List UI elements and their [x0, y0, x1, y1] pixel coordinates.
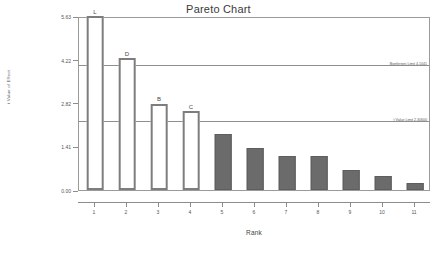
- bar-label-2: D: [125, 51, 129, 57]
- x-tick-label: 8: [317, 209, 320, 215]
- bar-rank-10[interactable]: [375, 176, 392, 190]
- bar-slot: [399, 18, 431, 190]
- bar-rank-9[interactable]: [343, 170, 360, 190]
- x-tick: [190, 203, 191, 207]
- x-tick-label: 7: [285, 209, 288, 215]
- x-tick: [254, 203, 255, 207]
- x-axis: 1234567891011: [78, 202, 430, 203]
- y-tick-label: 2.82: [61, 101, 71, 107]
- x-tick: [350, 203, 351, 207]
- bar-slot: D: [111, 18, 143, 190]
- x-tick: [382, 203, 383, 207]
- bar-rank-6[interactable]: [247, 148, 264, 190]
- bar-slot: [367, 18, 399, 190]
- bar-rank-1[interactable]: [87, 16, 104, 190]
- y-tick-label: 1.41: [61, 144, 71, 150]
- bars-layer: LDBC: [79, 18, 429, 190]
- bar-rank-4[interactable]: [183, 111, 200, 190]
- pareto-chart: Pareto Chart 0.001.412.824.225.63 t Valu…: [0, 0, 437, 254]
- y-tick-label: 4.22: [61, 58, 71, 64]
- bar-slot: B: [143, 18, 175, 190]
- x-tick: [414, 203, 415, 207]
- x-tick-label: 3: [157, 209, 160, 215]
- x-tick: [286, 203, 287, 207]
- bar-slot: [239, 18, 271, 190]
- x-tick: [158, 203, 159, 207]
- bar-rank-11[interactable]: [407, 183, 424, 190]
- bar-rank-8[interactable]: [311, 156, 328, 190]
- bar-label-3: B: [157, 96, 161, 102]
- x-tick-label: 11: [411, 209, 416, 215]
- plot-area: Bonferroni Limit 4.1041t Value Limit 2.3…: [78, 17, 430, 191]
- x-tick-label: 4: [189, 209, 192, 215]
- bar-rank-5[interactable]: [215, 134, 232, 190]
- bar-rank-3[interactable]: [151, 104, 168, 190]
- bar-slot: [271, 18, 303, 190]
- bar-slot: [207, 18, 239, 190]
- bar-slot: C: [175, 18, 207, 190]
- x-axis-title: Rank: [78, 229, 430, 236]
- x-tick-label: 5: [221, 209, 224, 215]
- bar-slot: L: [79, 18, 111, 190]
- bar-rank-7[interactable]: [279, 156, 296, 190]
- x-tick-label: 6: [253, 209, 256, 215]
- y-axis-title: t Value of Effect: [6, 70, 11, 104]
- x-tick-label: 9: [349, 209, 352, 215]
- x-tick: [94, 203, 95, 207]
- x-tick: [222, 203, 223, 207]
- x-tick: [318, 203, 319, 207]
- y-tick-label: 0.00: [61, 188, 71, 194]
- x-tick-label: 10: [379, 209, 385, 215]
- x-tick-label: 2: [125, 209, 128, 215]
- x-tick: [126, 203, 127, 207]
- y-axis: 0.001.412.824.225.63: [0, 17, 78, 191]
- y-tick-label: 5.63: [61, 14, 71, 20]
- bar-slot: [335, 18, 367, 190]
- bar-rank-2[interactable]: [119, 58, 136, 190]
- bar-label-4: C: [189, 104, 193, 110]
- bar-label-1: L: [93, 9, 96, 15]
- bar-slot: [303, 18, 335, 190]
- x-tick-label: 1: [93, 209, 96, 215]
